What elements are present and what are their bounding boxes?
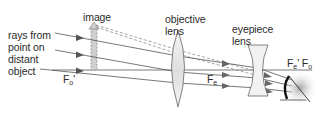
telescope-diagram (0, 0, 319, 114)
converging-arrowheads (222, 60, 230, 89)
image-arrow (89, 22, 99, 70)
label-image: image (83, 11, 111, 23)
label-focal-objective-prime: Fo' (63, 73, 75, 89)
label-focal-eyepiece: Fe (207, 73, 217, 89)
label-objective-line2: lens (165, 25, 184, 37)
label-objective-line1: objective (165, 13, 206, 25)
label-focal-right: Fe' Fo (287, 57, 312, 73)
eye-icon (280, 70, 318, 106)
label-rays-line3: distant (8, 53, 38, 65)
label-rays-line1: rays from (8, 29, 51, 41)
label-rays-line4: object (8, 65, 35, 77)
label-eyepiece-line2: lens (232, 35, 251, 47)
ray-arrowheads (76, 35, 84, 75)
incoming-rays (40, 33, 178, 83)
label-eyepiece-line1: eyepiece (232, 23, 273, 35)
objective-lens (172, 30, 185, 107)
label-rays-line2: point on (8, 41, 45, 53)
